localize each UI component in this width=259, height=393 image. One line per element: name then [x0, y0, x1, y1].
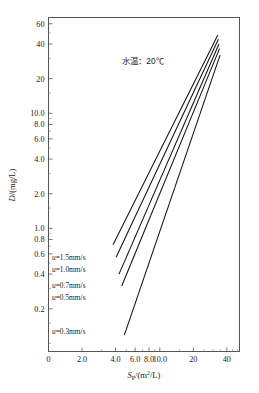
- water-temperature-annotation: 水温：20℃: [122, 56, 164, 66]
- x-tick-label: 0: [46, 355, 50, 364]
- y-tick-label: 1.0: [34, 224, 44, 233]
- x-axis-label-tail: /L): [150, 370, 161, 380]
- y-tick-label: 10.0: [30, 109, 44, 118]
- series-label: u=1.0mm/s: [52, 265, 86, 274]
- y-axis-label: D/(mg/L): [7, 168, 17, 202]
- y-tick-label: 4.0: [34, 155, 44, 164]
- x-tick-label: 4.0: [110, 355, 120, 364]
- y-tick-label: 0.4: [34, 270, 44, 279]
- y-tick-label: 0.6: [34, 250, 44, 259]
- log-log-line-chart: 02.04.06.08.010.02040 60402010.08.06.04.…: [0, 0, 259, 393]
- series-label: u=0.5mm/s: [52, 293, 86, 302]
- series-label: u=0.3mm/s: [52, 327, 86, 336]
- y-tick-label: 0.8: [34, 235, 44, 244]
- x-tick-label: 2.0: [77, 355, 87, 364]
- x-tick-label: 40: [223, 355, 231, 364]
- y-tick-label: 40: [36, 40, 44, 49]
- chart-figure: 02.04.06.08.010.02040 60402010.08.06.04.…: [0, 0, 259, 393]
- y-tick-label: 60: [36, 20, 44, 29]
- x-axis-label-units: /(m: [135, 370, 147, 380]
- x-tick-label: 10.0: [153, 355, 167, 364]
- y-tick-label: 8.0: [34, 120, 44, 129]
- svg-text:D/(mg/L): D/(mg/L): [7, 168, 17, 202]
- series-label: u=0.7mm/s: [52, 281, 86, 290]
- y-tick-label: 2.0: [34, 190, 44, 199]
- x-tick-label: 6.0: [130, 355, 140, 364]
- x-tick-label: 20: [189, 355, 197, 364]
- y-tick-label: 0.2: [34, 305, 44, 314]
- y-axis-label-units: /(mg/L): [7, 168, 17, 195]
- y-tick-label: 6.0: [34, 135, 44, 144]
- series-label: u=1.5mm/s: [52, 253, 86, 262]
- y-tick-label: 20: [36, 75, 44, 84]
